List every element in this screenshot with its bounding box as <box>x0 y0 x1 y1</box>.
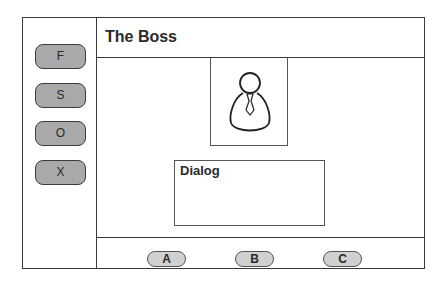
footer-button-a[interactable]: A <box>147 251 186 267</box>
footer-divider <box>96 237 425 238</box>
sidebar-divider <box>96 17 97 269</box>
dialog-box: Dialog <box>174 160 325 226</box>
sidebar-button-s[interactable]: S <box>35 83 86 108</box>
footer-button-b[interactable]: B <box>235 251 274 267</box>
person-with-tie-icon <box>211 57 289 146</box>
sidebar-button-x[interactable]: X <box>35 160 86 185</box>
sidebar-button-o[interactable]: O <box>35 121 86 146</box>
footer-button-c[interactable]: C <box>323 251 362 267</box>
sidebar-button-f[interactable]: F <box>35 44 86 69</box>
boss-portrait <box>210 57 288 146</box>
dialog-title: Dialog <box>180 163 220 178</box>
page-title: The Boss <box>105 28 177 46</box>
